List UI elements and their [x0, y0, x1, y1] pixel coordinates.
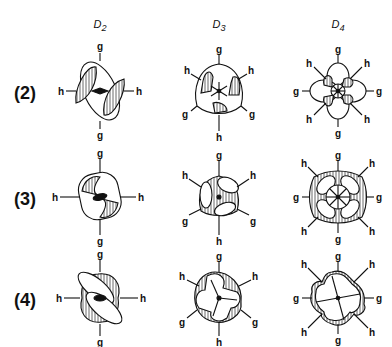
- diagram-d3-row3: g h h h g g: [182, 150, 256, 247]
- diagram-d2-row2: g g h h: [58, 41, 142, 141]
- svg-text:g: g: [335, 150, 341, 161]
- svg-text:h: h: [52, 192, 58, 203]
- svg-text:g: g: [250, 216, 256, 227]
- svg-text:h: h: [364, 58, 370, 69]
- diagram-d4-row4: g g g g h h h h: [293, 251, 382, 346]
- diagram-d4-row3: g g g g h h h h: [293, 150, 382, 245]
- svg-text:g: g: [335, 44, 341, 55]
- svg-text:h: h: [301, 327, 307, 338]
- svg-text:h: h: [252, 271, 258, 282]
- diagram-d2-row3: g g h h: [52, 148, 144, 247]
- diagram-d3-row2: g h h h g g: [182, 44, 255, 143]
- svg-text:g: g: [252, 317, 258, 328]
- svg-text:h: h: [179, 271, 185, 282]
- svg-text:g: g: [293, 86, 299, 97]
- symmetry-diagram-grid: g g h h g h h h g g: [0, 0, 392, 347]
- svg-text:h: h: [306, 58, 312, 69]
- svg-text:h: h: [216, 337, 222, 347]
- diagram-d3-row4: g h h h g g: [179, 251, 258, 347]
- svg-text:g: g: [182, 109, 188, 120]
- svg-text:g: g: [97, 236, 103, 247]
- svg-text:g: g: [97, 41, 103, 52]
- svg-text:h: h: [364, 114, 370, 125]
- diagram-d2-row4: g g h h: [56, 249, 146, 347]
- svg-text:h: h: [136, 86, 142, 97]
- svg-text:g: g: [182, 216, 188, 227]
- diagram-d4-row2: g g g g h h h h: [293, 44, 382, 139]
- svg-text:h: h: [369, 226, 375, 237]
- svg-text:h: h: [369, 327, 375, 338]
- svg-text:h: h: [138, 192, 144, 203]
- svg-text:h: h: [369, 158, 375, 169]
- svg-text:h: h: [216, 132, 222, 143]
- svg-text:h: h: [216, 236, 222, 247]
- svg-text:g: g: [97, 130, 103, 141]
- svg-text:h: h: [301, 259, 307, 270]
- svg-text:g: g: [335, 128, 341, 139]
- svg-text:h: h: [140, 293, 146, 304]
- svg-text:g: g: [97, 337, 103, 347]
- svg-text:h: h: [184, 65, 190, 76]
- svg-text:h: h: [248, 65, 254, 76]
- svg-text:g: g: [216, 44, 222, 55]
- svg-text:g: g: [376, 86, 382, 97]
- svg-text:g: g: [216, 150, 222, 161]
- svg-text:g: g: [376, 293, 382, 304]
- svg-text:h: h: [58, 86, 64, 97]
- svg-text:g: g: [97, 249, 103, 260]
- svg-text:g: g: [249, 109, 255, 120]
- svg-text:h: h: [369, 259, 375, 270]
- svg-text:g: g: [216, 251, 222, 262]
- svg-text:h: h: [250, 170, 256, 181]
- svg-text:h: h: [306, 114, 312, 125]
- svg-text:g: g: [335, 234, 341, 245]
- svg-text:g: g: [293, 293, 299, 304]
- svg-text:g: g: [179, 317, 185, 328]
- svg-text:h: h: [182, 170, 188, 181]
- svg-text:h: h: [301, 226, 307, 237]
- svg-text:g: g: [335, 335, 341, 346]
- svg-text:g: g: [97, 148, 103, 159]
- svg-text:h: h: [56, 293, 62, 304]
- svg-text:g: g: [293, 192, 299, 203]
- svg-text:g: g: [335, 251, 341, 262]
- svg-text:h: h: [301, 158, 307, 169]
- svg-text:g: g: [376, 192, 382, 203]
